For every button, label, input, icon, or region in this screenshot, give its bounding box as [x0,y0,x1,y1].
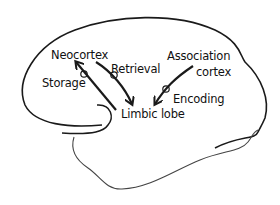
storage-label: Storage [42,78,86,90]
temporal-fold [62,105,111,134]
retrieval-label: Retrieval [111,64,160,76]
neocortex-label: Neocortex [51,50,108,62]
brain-outline-drawing [0,0,280,205]
brain-diagram: Neocortex Retrieval Association cortex S… [0,0,280,205]
limbic-lobe-label: Limbic lobe [121,109,185,121]
association-label: Association [167,51,230,63]
lower-lobe-outline [73,130,258,189]
encoding-label: Encoding [173,94,224,106]
cortex-label: cortex [196,67,231,79]
